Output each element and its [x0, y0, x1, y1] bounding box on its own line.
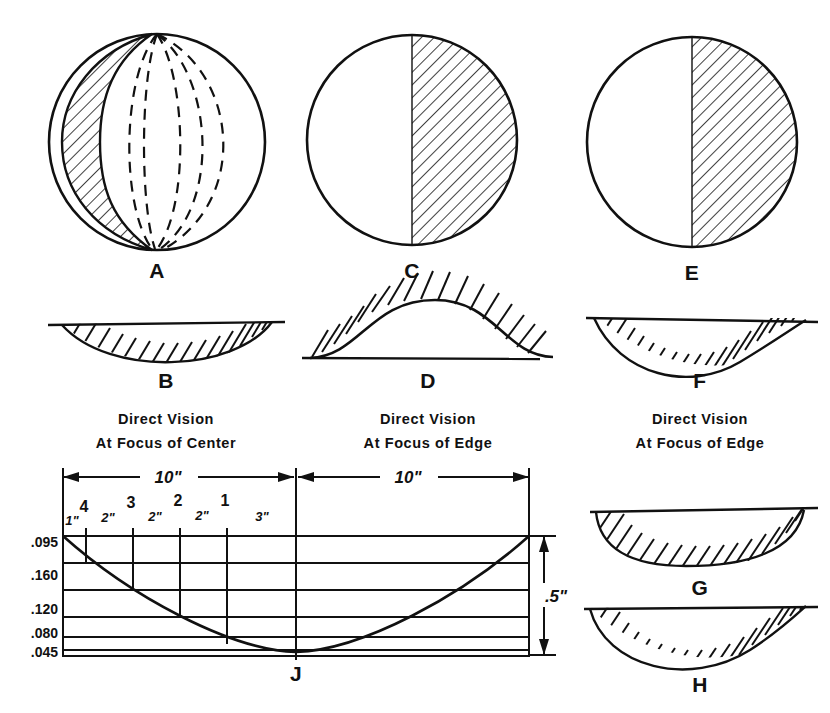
panel-label-b: B — [158, 369, 174, 392]
panel-label-e: E — [685, 261, 700, 284]
figure-root: A C E — [0, 0, 830, 713]
profile-g-baseline — [590, 508, 818, 512]
diagram-canvas: A C E — [0, 0, 830, 713]
panel-profile-g: G — [590, 486, 818, 599]
profile-h-curve — [590, 606, 806, 669]
circle-a-meridians — [129, 34, 223, 249]
panel-profile-f: F — [586, 292, 818, 392]
chart-j-segment-label-4: 3" — [255, 509, 269, 524]
panel-label-f: F — [693, 369, 706, 392]
panel-label-h: H — [692, 673, 708, 696]
panel-label-g: G — [692, 576, 709, 599]
chart-j-ytick-2: .120 — [31, 601, 58, 617]
chart-j-segment-label-0: 1" — [65, 513, 79, 528]
chart-j-station-4: 4 — [80, 498, 89, 515]
panel-label-a: A — [149, 259, 165, 282]
circle-c-hatched-half — [412, 30, 527, 255]
profile-d-baseline — [302, 358, 540, 359]
chart-j-station-3: 3 — [127, 494, 136, 511]
panel-circle-c: C — [307, 30, 527, 282]
caption-1-line-1: Direct Vision — [118, 411, 214, 427]
panel-circle-a: A — [49, 34, 265, 282]
panel-profile-h: H — [584, 583, 818, 696]
panel-circle-e: E — [587, 32, 807, 284]
panel-profile-d: D — [302, 271, 553, 392]
chart-j-segment-ticks — [86, 528, 227, 644]
caption-3-line-1: Direct Vision — [652, 411, 748, 427]
caption-2-line-1: Direct Vision — [380, 411, 476, 427]
caption-3-line-2: At Focus of Edge — [636, 435, 765, 451]
chart-j-vertical-dim-label: .5" — [545, 587, 568, 606]
caption-group-2: Direct Vision At Focus of Edge — [364, 411, 493, 451]
chart-j-segment-label-3: 2" — [194, 508, 209, 523]
caption-group-1: Direct Vision At Focus of Center — [96, 411, 237, 451]
panel-label-c: C — [404, 259, 420, 282]
chart-j-ytick-1: .160 — [31, 567, 58, 583]
chart-j-segment-label-1: 2" — [100, 510, 115, 525]
chart-j-dimension-right: 10" — [298, 465, 529, 487]
caption-group-3: Direct Vision At Focus of Edge — [636, 411, 765, 451]
caption-1-line-2: At Focus of Center — [96, 435, 237, 451]
chart-j-ytick-3: .080 — [31, 625, 58, 641]
chart-j: 10" 10" 4 3 2 1 1" 2" 2" 2" 3" — [31, 465, 575, 685]
profile-d-curve — [310, 300, 553, 358]
caption-2-line-2: At Focus of Edge — [364, 435, 493, 451]
chart-j-ytick-0: .095 — [31, 534, 58, 550]
chart-j-station-1: 1 — [221, 492, 230, 509]
chart-j-span-left-label: 10" — [155, 468, 183, 487]
chart-j-span-right-label: 10" — [395, 468, 423, 487]
chart-j-label: J — [290, 662, 302, 685]
chart-j-station-2: 2 — [174, 492, 183, 509]
panel-profile-b: B — [48, 296, 285, 392]
chart-j-segment-label-2: 2" — [147, 509, 162, 524]
profile-g-hatching — [596, 486, 813, 573]
chart-j-dimension-left: 10" — [63, 465, 294, 487]
panel-label-d: D — [420, 369, 436, 392]
chart-j-dimension-vertical: .5" — [529, 536, 575, 655]
circle-a-hatched-zone — [62, 34, 152, 250]
profile-f-curve — [594, 318, 806, 377]
profile-b-baseline — [48, 322, 285, 325]
chart-j-ytick-4: .045 — [31, 644, 58, 660]
